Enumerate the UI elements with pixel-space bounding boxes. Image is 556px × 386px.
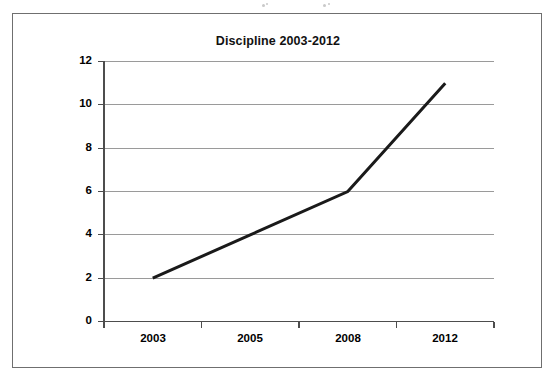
line-chart-plot [13, 14, 543, 369]
y-axis-ticks [98, 62, 104, 322]
y-tick-label-2: 2 [66, 271, 92, 283]
x-axis-ticks [104, 322, 494, 329]
y-tick-label-4: 4 [66, 227, 92, 239]
y-tick-label-8: 8 [66, 141, 92, 153]
x-tick-label-2008: 2008 [318, 332, 378, 344]
x-tick-label-2005: 2005 [220, 332, 280, 344]
y-tick-label-10: 10 [66, 97, 92, 109]
data-series-line [153, 83, 446, 278]
y-tick-label-0: 0 [66, 314, 92, 326]
y-tick-label-6: 6 [66, 184, 92, 196]
x-tick-label-2012: 2012 [415, 332, 475, 344]
chart-frame: Discipline 2003-2012 [12, 13, 542, 368]
scan-artifact [0, 0, 556, 12]
y-tick-label-12: 12 [66, 54, 92, 66]
x-tick-label-2003: 2003 [123, 332, 183, 344]
